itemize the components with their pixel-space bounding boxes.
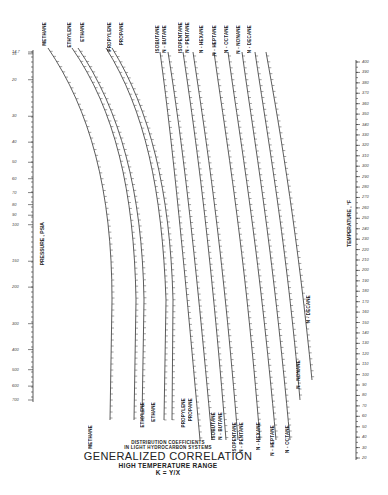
k-curves [48, 48, 312, 440]
label-bottom-n-octane: N - OCTANE [285, 425, 290, 453]
pressure-tick: 60 [12, 176, 16, 181]
temperature-tick: 260 [362, 205, 369, 210]
label-bottom-n-decane: N - DECANE [306, 295, 311, 323]
pressure-tick: 20 [12, 77, 16, 82]
temperature-tick: 50 [362, 424, 366, 429]
pressure-tick: 500 [12, 367, 19, 372]
pressure-tick: 400 [12, 347, 19, 352]
pressure-tick: 200 [12, 284, 19, 289]
temperature-tick: 110 [362, 361, 368, 366]
label-methane: METHANE [42, 22, 47, 46]
pressure-axis-title: PRESSURE , PSIA [39, 222, 45, 265]
temperature-tick: 290 [362, 174, 369, 179]
label-n-pentane: N - PENTANE [185, 22, 190, 53]
temperature-tick: 350 [362, 111, 369, 116]
label-n-nonane: N - NONANE [236, 25, 241, 54]
chart-caption: DISTRIBUTION COEFFICIENTS IN LIGHT HYDRO… [68, 440, 268, 476]
label-bottom-isobutane: ISOBUTANE [211, 412, 216, 440]
temperature-tick: 370 [362, 90, 369, 95]
temperature-tick: 320 [362, 142, 369, 147]
label-ethylene: ETHYLENE [67, 22, 72, 48]
pressure-tick: 30 [12, 113, 16, 118]
label-bottom-n-butane: N - BUTANE [218, 412, 223, 440]
nomograph-svg [0, 0, 388, 495]
temperature-tick: 310 [362, 153, 369, 158]
temperature-tick: 200 [362, 267, 369, 272]
label-n-hexane: N - HEXANE [199, 25, 204, 53]
temperature-tick: 180 [362, 288, 369, 293]
label-bottom-n-heptane: N - HEPTANE [270, 425, 275, 456]
temperature-tick: 120 [362, 351, 369, 356]
label-propane: PROPANE [119, 22, 124, 45]
label-n-heptane: N - HEPTANE [212, 25, 217, 56]
temperature-tick: 270 [362, 194, 369, 199]
temperature-tick: 100 [362, 372, 369, 377]
chart-title: GENERALIZED CORRELATION [68, 450, 268, 462]
label-n-decane: N - DECANE [247, 25, 252, 53]
label-bottom-propane: PROPANE [188, 398, 193, 421]
temperature-tick: 250 [362, 215, 369, 220]
temperature-tick: 240 [362, 226, 369, 231]
pressure-tick: 90 [12, 212, 16, 217]
temperature-tick: 130 [362, 340, 369, 345]
pressure-tick: 600 [12, 383, 19, 388]
label-n-butane: N - BUTANE [162, 25, 167, 53]
pressure-tick: 700 [12, 397, 19, 402]
pressure-tick: 150 [12, 258, 19, 263]
label-bottom-propylene: PROPYLENE [181, 398, 186, 428]
temperature-tick: 380 [362, 80, 369, 85]
temperature-tick: 280 [362, 184, 369, 189]
temperature-tick: 170 [362, 299, 369, 304]
pressure-tick: 70 [12, 190, 16, 195]
temperature-tick: 40 [362, 434, 366, 439]
temperature-tick: 330 [362, 132, 369, 137]
temperature-tick: 140 [362, 330, 369, 335]
temperature-tick: 220 [362, 247, 369, 252]
temperature-tick: 210 [362, 257, 369, 262]
pressure-axis [28, 50, 33, 402]
temperature-tick: 230 [362, 236, 369, 241]
temperature-tick: 90 [362, 382, 366, 387]
pressure-tick: 300 [12, 321, 19, 326]
label-isobutane: ISOBUTANE [155, 25, 160, 53]
label-bottom-ethylene: ETHYLENE [140, 402, 145, 428]
pressure-tick: 50 [12, 159, 16, 164]
temperature-tick: 390 [362, 69, 369, 74]
label-n-octane: N - OCTANE [224, 25, 229, 53]
temperature-tick: 400 [362, 59, 369, 64]
temperature-tick: 300 [362, 163, 369, 168]
pressure-tick: 100 [12, 222, 19, 227]
label-ethane: ETHANE [80, 22, 85, 42]
temperature-tick: 340 [362, 122, 369, 127]
label-bottom-ethane: ETHANE [151, 402, 156, 422]
label-bottom-n-nonane: N - NONANE [296, 360, 301, 389]
pressure-tick: 80 [12, 202, 16, 207]
pressure-tick: 40 [12, 139, 16, 144]
label-isopentane: ISOPENTANE [178, 22, 183, 53]
pressure-tick: 15 [12, 51, 16, 56]
temperature-tick: 190 [362, 278, 369, 283]
temperature-tick: 160 [362, 309, 369, 314]
temperature-tick: 20 [362, 455, 366, 460]
temperature-tick: 80 [362, 392, 366, 397]
temperature-tick: 60 [362, 413, 366, 418]
chart-formula: K = Y/X [68, 469, 268, 476]
temperature-tick: 360 [362, 101, 369, 106]
chart-subtitle: HIGH TEMPERATURE RANGE [68, 462, 268, 469]
label-propylene: PROPYLENE [107, 22, 112, 52]
temperature-tick: 70 [362, 403, 366, 408]
temperature-axis-title: TEMPERATURE , °F [346, 200, 352, 247]
temperature-tick: 30 [362, 445, 366, 450]
temperature-tick: 150 [362, 320, 369, 325]
